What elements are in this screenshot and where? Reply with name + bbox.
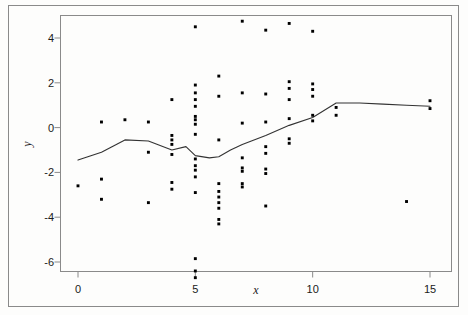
figure-root: 420-2-4-6 051015 x y <box>0 0 468 315</box>
data-point <box>217 75 220 78</box>
trend-line <box>78 103 430 160</box>
data-point <box>217 218 220 221</box>
y-axis-tick-marks <box>55 38 61 262</box>
data-point <box>429 107 432 110</box>
data-point <box>194 84 197 87</box>
data-point <box>264 172 267 175</box>
data-point <box>264 205 267 208</box>
data-point <box>288 117 291 120</box>
data-point <box>194 115 197 118</box>
data-point <box>405 200 408 203</box>
data-point <box>311 88 314 91</box>
data-point <box>241 166 244 169</box>
y-tick-label--6: -6 <box>30 256 54 268</box>
data-point <box>194 91 197 94</box>
x-axis-label: x <box>253 283 258 298</box>
data-point <box>288 87 291 90</box>
data-point <box>264 29 267 32</box>
data-point <box>100 198 103 201</box>
y-tick-label-2: 2 <box>30 77 54 89</box>
data-point <box>288 142 291 145</box>
data-point <box>217 196 220 199</box>
data-point <box>217 201 220 204</box>
data-point <box>194 276 197 279</box>
data-point <box>194 118 197 121</box>
data-point <box>217 95 220 98</box>
data-point <box>217 222 220 225</box>
data-point <box>241 186 244 189</box>
data-point <box>123 118 126 121</box>
data-point <box>194 257 197 260</box>
data-point <box>264 168 267 171</box>
data-point <box>194 175 197 178</box>
data-point <box>241 20 244 23</box>
data-point <box>335 114 338 117</box>
data-point <box>288 137 291 140</box>
x-axis-tick-marks <box>78 272 430 278</box>
data-point <box>194 270 197 273</box>
data-point <box>217 138 220 141</box>
data-point <box>170 153 173 156</box>
data-point <box>217 207 220 210</box>
data-point <box>288 22 291 25</box>
data-point <box>264 145 267 148</box>
data-point <box>170 138 173 141</box>
data-point <box>147 151 150 154</box>
x-tick-label-0: 0 <box>75 283 81 295</box>
data-point <box>241 182 244 185</box>
y-tick-label-0: 0 <box>30 122 54 134</box>
data-point <box>194 105 197 108</box>
data-point <box>288 80 291 83</box>
data-point <box>311 95 314 98</box>
y-tick-label-4: 4 <box>30 32 54 44</box>
data-point <box>194 123 197 126</box>
data-point <box>100 121 103 124</box>
data-point <box>194 164 197 167</box>
data-point <box>241 156 244 159</box>
x-tick-label-15: 15 <box>424 283 436 295</box>
data-point <box>241 170 244 173</box>
data-point <box>194 25 197 28</box>
data-point <box>147 201 150 204</box>
data-point <box>194 133 197 136</box>
data-point <box>264 121 267 124</box>
data-point <box>264 152 267 155</box>
data-point <box>311 82 314 85</box>
data-point <box>288 98 291 101</box>
data-point <box>170 181 173 184</box>
data-point <box>170 143 173 146</box>
x-tick-label-5: 5 <box>192 283 198 295</box>
data-point <box>170 98 173 101</box>
y-tick-label--4: -4 <box>30 211 54 223</box>
data-point <box>194 158 197 161</box>
data-point <box>77 184 80 187</box>
data-point <box>264 93 267 96</box>
data-point <box>170 134 173 137</box>
data-point <box>311 30 314 33</box>
data-point <box>241 122 244 125</box>
data-point <box>311 119 314 122</box>
y-axis-label: y <box>20 141 35 146</box>
data-point <box>170 188 173 191</box>
data-point <box>241 91 244 94</box>
data-point <box>194 98 197 101</box>
data-point <box>429 99 432 102</box>
data-point <box>217 190 220 193</box>
data-point <box>194 169 197 172</box>
data-points <box>77 20 432 279</box>
data-point <box>311 114 314 117</box>
data-point <box>194 191 197 194</box>
scatter-plot-canvas <box>0 0 468 315</box>
data-point <box>217 182 220 185</box>
data-point <box>147 121 150 124</box>
y-tick-label--2: -2 <box>30 166 54 178</box>
trend-line-path <box>78 103 430 160</box>
data-point <box>100 178 103 181</box>
x-tick-label-10: 10 <box>307 283 319 295</box>
data-point <box>335 106 338 109</box>
